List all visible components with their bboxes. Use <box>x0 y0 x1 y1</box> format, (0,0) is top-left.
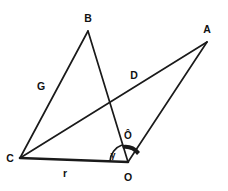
edge-line-oa <box>128 42 207 162</box>
edge-label-r: r <box>63 167 67 179</box>
angle-label-gamma: γ <box>110 150 115 160</box>
edge-line-ca <box>20 42 207 158</box>
edge-label-g: G <box>37 80 45 92</box>
geometry-diagram: B A C O G D r Ô γ <box>0 0 228 191</box>
vertex-label-b: B <box>84 12 92 24</box>
vertex-label-a: A <box>203 23 211 35</box>
edge-line-cb <box>20 31 88 158</box>
edge-label-d: D <box>130 69 138 81</box>
edge-group <box>20 31 207 162</box>
geometry-canvas: B A C O G D r Ô γ <box>0 0 228 191</box>
edge-line-bo <box>88 31 128 162</box>
vertex-label-c: C <box>6 152 14 164</box>
angle-label-o-hat: Ô <box>124 129 132 141</box>
vertex-label-o: O <box>124 171 132 183</box>
